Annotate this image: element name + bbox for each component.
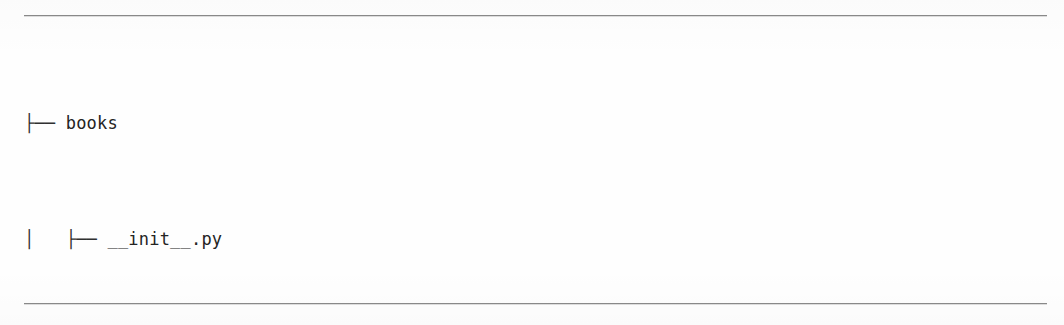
figure-bottom-rule (24, 303, 1047, 304)
tree-branch-connector: │ ├── (24, 229, 107, 249)
tree-row: │ ├── __init__.py (24, 225, 1044, 254)
tree-node-label: __init__.py (107, 229, 222, 249)
page: ├── books │ ├── __init__.py │ ├── admin.… (0, 0, 1064, 325)
directory-tree: ├── books │ ├── __init__.py │ ├── admin.… (24, 22, 1044, 325)
figure-top-rule (24, 15, 1047, 16)
tree-branch-connector: ├── (24, 113, 66, 133)
tree-row: ├── books (24, 109, 1044, 138)
tree-node-label: books (66, 113, 118, 133)
